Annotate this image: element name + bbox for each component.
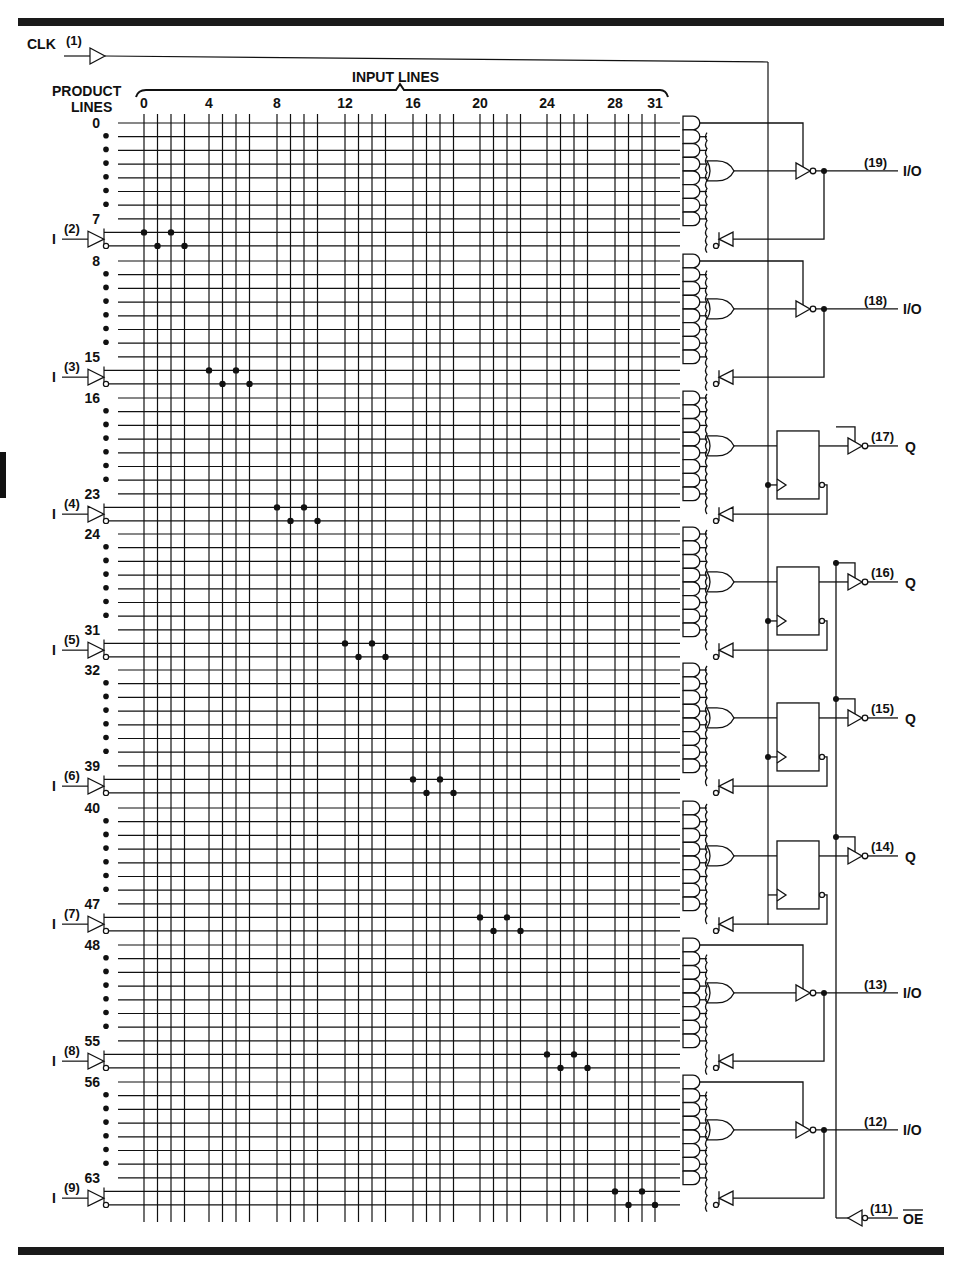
output-label: I/O — [903, 985, 922, 1001]
feedback-wire — [733, 171, 824, 239]
inversion-bubble-icon — [103, 1202, 108, 1207]
inversion-bubble-icon — [714, 518, 719, 523]
input-tick: 28 — [607, 95, 623, 111]
and-gate-icon — [683, 745, 700, 759]
inversion-bubble-icon — [103, 518, 108, 523]
input-pin: (7) — [64, 906, 80, 921]
and-gate-icon — [683, 323, 700, 337]
ellipsis-dot — [103, 298, 109, 304]
and-gate-icon — [683, 487, 700, 501]
or-gate-icon — [707, 572, 734, 592]
and-gate-icon — [683, 432, 700, 446]
inversion-bubble-icon — [103, 243, 108, 248]
input-buffer-icon — [88, 642, 104, 658]
inversion-bubble-icon — [810, 306, 816, 312]
product-line-number: 7 — [92, 211, 100, 227]
inversion-bubble-icon — [862, 715, 868, 721]
input-tick: 4 — [205, 95, 213, 111]
ellipsis-dot — [103, 435, 109, 441]
ellipsis-dot — [103, 558, 109, 564]
product-line-number: 16 — [84, 390, 100, 406]
and-gate-icon — [683, 704, 700, 718]
connection-dot — [625, 1202, 631, 1208]
ellipsis-dot — [103, 873, 109, 879]
connection-dot — [612, 1188, 618, 1194]
or-gate-icon — [707, 1120, 734, 1140]
output-pin: (15) — [871, 701, 894, 716]
and-gate-icon — [683, 815, 700, 829]
and-gate-icon — [683, 677, 700, 691]
input-label: I — [52, 1190, 56, 1206]
output-macrocells — [683, 116, 923, 1226]
product-line-number: 0 — [92, 115, 100, 131]
connection-dot — [557, 1065, 563, 1071]
clock-label: CLK — [27, 36, 56, 52]
and-gate-icon — [683, 405, 700, 419]
and-gate-icon — [683, 993, 700, 1007]
inversion-bubble-icon — [714, 1202, 719, 1207]
d-flip-flop — [777, 431, 819, 499]
and-gate-icon — [683, 1130, 700, 1144]
input-label: I — [52, 642, 56, 658]
ellipsis-dot — [103, 585, 109, 591]
ellipsis-dot — [103, 1119, 109, 1125]
ellipsis-dot — [103, 408, 109, 414]
ellipsis-dot — [103, 201, 109, 207]
input-buffer-icon — [88, 231, 104, 247]
ellipsis-dot — [103, 1092, 109, 1098]
ellipsis-dot — [103, 1160, 109, 1166]
connection-dot — [639, 1188, 645, 1194]
connection-dot — [274, 504, 280, 510]
input-pin: (6) — [64, 768, 80, 783]
connection-dot — [504, 914, 510, 920]
and-gate-icon — [683, 541, 700, 555]
feedback-buffer-icon — [719, 507, 733, 521]
ellipsis-dot — [103, 680, 109, 686]
connection-dot — [517, 928, 523, 934]
ellipsis-dot — [103, 886, 109, 892]
ellipsis-dot — [103, 1133, 109, 1139]
clock-line — [105, 56, 768, 62]
and-gate-icon — [683, 198, 700, 212]
and-gate-icon — [683, 309, 700, 323]
input-pin: (2) — [64, 221, 80, 236]
ellipsis-dot — [103, 721, 109, 727]
inversion-bubble-icon — [103, 381, 108, 386]
output-label: Q — [905, 439, 916, 455]
ellipsis-dot — [103, 859, 109, 865]
ellipsis-dot — [103, 1147, 109, 1153]
inversion-bubble-icon — [820, 482, 825, 487]
ellipsis-dot — [103, 996, 109, 1002]
and-gate-icon — [683, 295, 700, 309]
junction-dot — [765, 482, 771, 488]
ellipsis-dot — [103, 312, 109, 318]
and-gate-icon — [683, 897, 700, 911]
and-gate-icon — [683, 1007, 700, 1021]
input-lines-brace — [136, 84, 668, 97]
and-gate-icon — [683, 663, 700, 677]
and-gate-icon — [683, 966, 700, 980]
ellipsis-dot — [103, 174, 109, 180]
connection-dot — [301, 504, 307, 510]
and-gate-icon — [683, 212, 700, 226]
product-line-number: 23 — [84, 486, 100, 502]
and-gate-icon — [683, 1171, 700, 1185]
product-line-number: 39 — [84, 758, 100, 774]
or-gate-icon — [707, 299, 734, 319]
and-gate-icon — [683, 596, 700, 610]
input-pin: (4) — [64, 496, 80, 511]
output-label: Q — [905, 575, 916, 591]
input-buffer-icon — [88, 916, 104, 932]
connection-dot — [181, 243, 187, 249]
input-buffer-icon — [88, 506, 104, 522]
inversion-bubble-icon — [714, 1065, 719, 1070]
and-gate-icon — [683, 116, 700, 130]
d-flip-flop — [777, 703, 819, 771]
output-pin: (18) — [864, 293, 887, 308]
inversion-bubble-icon — [810, 1127, 816, 1133]
input-tick: 24 — [539, 95, 555, 111]
inversion-bubble-icon — [714, 654, 719, 659]
inversion-bubble-icon — [810, 168, 816, 174]
input-tick: 12 — [337, 95, 353, 111]
connection-dot — [477, 914, 483, 920]
